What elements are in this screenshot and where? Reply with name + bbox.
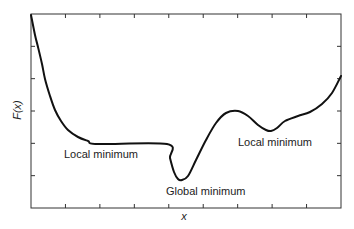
y-axis-label: F(x) <box>11 100 23 120</box>
x-axis-label: x <box>180 210 187 222</box>
annotation-local-minimum-left: Local minimum <box>64 148 138 160</box>
annotation-global-minimum: Global minimum <box>166 185 245 197</box>
chart-canvas: Local minimum Global minimum Local minim… <box>0 0 354 229</box>
annotation-local-minimum-right: Local minimum <box>238 136 312 148</box>
